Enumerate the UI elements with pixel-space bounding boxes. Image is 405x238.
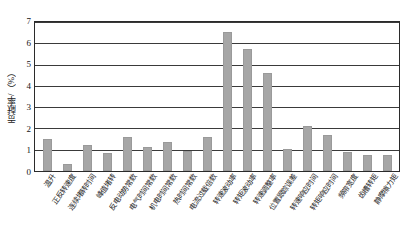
bar-slot xyxy=(297,22,317,171)
plot-area xyxy=(34,21,400,172)
bar-series xyxy=(35,22,399,171)
bar[interactable] xyxy=(103,153,112,171)
bar[interactable] xyxy=(363,155,372,171)
x-axis-tick-labels: 温升正反转速度连续堵转时间峰值堵转反电动势常数电气时间常数机电时间常数热时间常数… xyxy=(34,173,400,238)
bar[interactable] xyxy=(223,32,232,171)
bar[interactable] xyxy=(383,155,392,171)
bar-slot xyxy=(257,22,277,171)
bar[interactable] xyxy=(83,145,92,171)
bar-slot xyxy=(377,22,397,171)
y-tick-label: 4 xyxy=(27,81,32,90)
y-tick-label: 5 xyxy=(27,60,32,69)
bar-slot xyxy=(77,22,97,171)
y-axis-title: 贡献率/（%） xyxy=(1,18,19,173)
y-axis-tick-labels: 01234567 xyxy=(18,16,32,173)
bar[interactable] xyxy=(43,139,52,171)
bar-slot xyxy=(117,22,137,171)
bar[interactable] xyxy=(343,152,352,171)
bar[interactable] xyxy=(63,164,72,171)
y-tick-label: 0 xyxy=(27,168,32,177)
x-tick-label: 温升 xyxy=(43,173,58,189)
bar-slot xyxy=(217,22,237,171)
bar-slot xyxy=(277,22,297,171)
y-tick-label: 7 xyxy=(27,17,32,26)
bar-slot xyxy=(317,22,337,171)
bar[interactable] xyxy=(143,147,152,171)
bar-chart-figure: 贡献率/（%） 01234567 温升正反转速度连续堵转时间峰值堵转反电动势常数… xyxy=(0,0,405,238)
bar-slot xyxy=(237,22,257,171)
y-tick-label: 1 xyxy=(27,146,32,155)
bar-slot xyxy=(197,22,217,171)
bar-slot xyxy=(37,22,57,171)
x-tick-label: 频带宽度 xyxy=(337,173,360,201)
bar[interactable] xyxy=(243,49,252,171)
bar[interactable] xyxy=(163,142,172,171)
y-tick-label: 6 xyxy=(27,38,32,47)
y-tick-label: 3 xyxy=(27,103,32,112)
bar[interactable] xyxy=(183,151,192,171)
bar[interactable] xyxy=(123,137,132,171)
bar-slot xyxy=(337,22,357,171)
bar-slot xyxy=(97,22,117,171)
bar-slot xyxy=(177,22,197,171)
bar[interactable] xyxy=(283,149,292,171)
y-axis-title-text: 贡献率/（%） xyxy=(4,68,17,123)
bar[interactable] xyxy=(263,73,272,171)
bar[interactable] xyxy=(203,137,212,171)
bar-slot xyxy=(357,22,377,171)
y-tick-label: 2 xyxy=(27,124,32,133)
bar[interactable] xyxy=(303,126,312,171)
bar[interactable] xyxy=(323,135,332,171)
bar-slot xyxy=(137,22,157,171)
bar-slot xyxy=(157,22,177,171)
bar-slot xyxy=(57,22,77,171)
